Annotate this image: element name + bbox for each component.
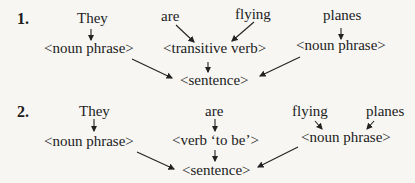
arrow-planes-np-2: [367, 121, 374, 129]
node-verb-to-be: <verb ‘to be’>: [172, 133, 259, 148]
word-are-2: are: [205, 104, 223, 119]
word-flying: flying: [235, 7, 271, 22]
word-planes-2: planes: [366, 104, 404, 119]
arrow-flying-tv: [232, 22, 254, 41]
arrow-np1-s-2: [137, 152, 174, 169]
word-they: They: [77, 11, 108, 26]
node-transitive-verb: <transitive verb>: [163, 41, 266, 56]
word-flying-2: flying: [292, 104, 328, 119]
diagram-1-number: 1.: [17, 11, 29, 27]
word-planes: planes: [323, 8, 361, 23]
node-noun-phrase-2: <noun phrase>: [296, 38, 386, 53]
arrow-np2-s: [260, 57, 300, 76]
node-sentence: <sentence>: [180, 73, 249, 88]
node-noun-phrase-1-2: <noun phrase>: [44, 134, 134, 149]
word-are: are: [161, 9, 179, 24]
node-noun-phrase-2-2: <noun phrase>: [301, 130, 391, 145]
word-they-2: They: [79, 104, 110, 119]
node-sentence-2: <sentence>: [182, 163, 251, 178]
diagram-2-number: 2.: [17, 104, 29, 120]
arrow-np2-s-2: [258, 147, 298, 167]
arrows-layer: [0, 0, 415, 183]
arrow-flying-np-2: [315, 121, 322, 129]
arrow-np1-s: [132, 59, 172, 78]
node-noun-phrase-1: <noun phrase>: [44, 41, 134, 56]
